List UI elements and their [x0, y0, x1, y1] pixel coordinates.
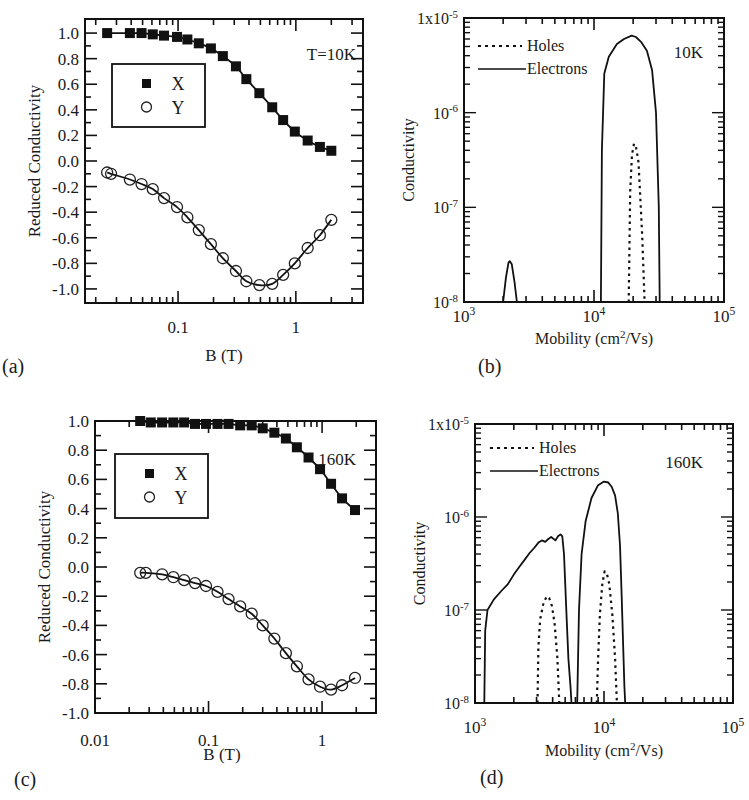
panel-c-reduced-conductivity-160k: 1.00.80.60.40.20.0-0.2-0.4-0.6-0.8-1.00.…: [35, 412, 376, 764]
temperature-annotation-c: 160K: [318, 450, 357, 469]
y-axis-label-a: Reduced Conductivity: [25, 84, 44, 237]
data-point-x-c: [304, 453, 314, 463]
y-tick-label-a: -1.0: [52, 280, 79, 299]
y-tick-label-b: 1x10-5: [417, 8, 459, 27]
legend-box-c: [115, 454, 208, 518]
y-tick-label-a: 0.4: [58, 101, 80, 120]
data-point-x-c: [201, 419, 211, 429]
y-tick-label-a: 0.8: [58, 50, 79, 69]
x-tick-label-b: 103: [453, 305, 476, 326]
panel-d-mobility-spectrum-160k: 1x10-510-610-710-8103104105Mobility (cm2…: [411, 414, 745, 760]
data-point-x-a: [267, 102, 277, 112]
y-tick-label-c: -0.4: [62, 616, 89, 635]
data-point-x-c: [146, 417, 156, 427]
data-point-x-a: [231, 61, 241, 71]
temperature-annotation-d: 160K: [665, 453, 704, 472]
y-tick-label-c: -0.8: [62, 675, 89, 694]
data-point-x-c: [292, 442, 302, 452]
y-tick-label-a: -0.2: [52, 178, 79, 197]
x-tick-label-b: 104: [583, 305, 606, 326]
data-point-x-c: [190, 419, 200, 429]
y-tick-label-a: -0.8: [52, 254, 79, 273]
x-tick-label-c: 1: [318, 731, 327, 750]
panel-label-b: (b): [478, 355, 501, 378]
data-point-x-a: [303, 136, 313, 146]
data-point-x-a: [194, 38, 204, 48]
x-tick-label-d: 105: [722, 716, 745, 737]
data-point-x-a: [159, 31, 169, 41]
data-point-x-c: [168, 417, 178, 427]
data-point-x-a: [278, 115, 288, 125]
data-point-x-c: [224, 419, 234, 429]
legend-box-a: [112, 64, 205, 127]
legend-c: XY: [115, 454, 208, 518]
data-point-x-a: [182, 34, 192, 44]
legend-label-electrons: Electrons: [539, 462, 599, 479]
x-tick-label-d: 104: [593, 716, 616, 737]
data-point-x-a: [326, 146, 336, 156]
legend-square-marker-icon: [145, 469, 154, 478]
data-point-x-a: [315, 142, 325, 152]
data-area-d: [484, 482, 625, 703]
y-tick-label-c: 0.4: [68, 500, 90, 519]
y-axis-label-c: Reduced Conductivity: [35, 490, 54, 643]
y-tick-label-d: 10-6: [444, 507, 470, 526]
y-tick-label-a: 0.0: [58, 152, 79, 171]
y-tick-label-d: 10-7: [444, 600, 470, 619]
y-tick-label-d: 1x10-5: [428, 414, 470, 433]
x-tick-label-a: 1: [292, 318, 301, 337]
data-point-x-a: [218, 51, 228, 61]
y-tick-label-c: 0.6: [68, 470, 89, 489]
data-point-x-a: [172, 32, 182, 42]
panel-a-reduced-conductivity-10k: 1.00.80.60.40.20.0-0.2-0.4-0.6-0.8-1.00.…: [25, 19, 363, 365]
y-tick-label-c: 1.0: [68, 412, 89, 431]
x-axis-label-d: Mobility (cm2/Vs): [545, 740, 663, 760]
fit-curve-y-c: [140, 573, 355, 690]
data-point-x-a: [290, 127, 300, 137]
data-point-x-c: [350, 505, 360, 515]
data-point-x-c: [269, 428, 279, 438]
figure-canvas: 1.00.80.60.40.20.0-0.2-0.4-0.6-0.8-1.00.…: [0, 0, 749, 800]
y-tick-label-c: -1.0: [62, 704, 89, 723]
legend-b: HolesElectrons: [478, 37, 587, 77]
data-point-x-c: [157, 417, 167, 427]
y-tick-label-a: 0.6: [58, 75, 79, 94]
data-point-x-c: [337, 493, 347, 503]
data-point-x-a: [241, 74, 251, 84]
legend-d: HolesElectrons: [490, 439, 599, 479]
x-axis-label-c: B (T): [203, 745, 240, 764]
legend-label-y: Y: [175, 488, 188, 508]
holes-curve-b: [629, 144, 645, 302]
legend-label-y: Y: [172, 98, 185, 118]
temperature-annotation-a: T=10K: [307, 45, 357, 64]
x-tick-label-c: 0.01: [80, 731, 110, 750]
y-tick-label-a: -0.4: [52, 203, 79, 222]
y-tick-label-a: -0.6: [52, 229, 79, 248]
data-point-x-c: [247, 420, 257, 430]
panel-b-mobility-spectrum-10k: 1x10-510-610-710-8103104105Mobility (cm2…: [400, 8, 736, 348]
y-tick-label-c: 0.2: [68, 529, 89, 548]
y-axis-label-b: Conductivity: [400, 118, 418, 202]
panel-label-a: (a): [2, 355, 24, 378]
y-tick-label-c: 0.0: [68, 558, 89, 577]
data-point-y-c: [349, 672, 360, 683]
x-tick-label-d: 103: [464, 716, 487, 737]
legend-label-holes: Holes: [527, 37, 564, 54]
x-tick-label-b: 105: [713, 305, 736, 326]
data-point-x-a: [148, 29, 158, 39]
y-tick-label-a: 0.2: [58, 126, 79, 145]
legend-label-holes: Holes: [539, 439, 576, 456]
data-point-x-c: [281, 434, 291, 444]
legend-label-electrons: Electrons: [527, 60, 587, 77]
data-point-x-c: [326, 479, 336, 489]
data-point-x-a: [102, 28, 112, 38]
holes-curve-d: [538, 596, 560, 703]
temperature-annotation-b: 10K: [674, 43, 704, 62]
y-tick-label-c: -0.6: [62, 646, 89, 665]
data-point-x-c: [235, 420, 245, 430]
legend-square-marker-icon: [142, 79, 151, 88]
y-tick-label-a: 1.0: [58, 24, 79, 43]
data-point-x-a: [206, 43, 216, 53]
y-tick-label-c: -0.2: [62, 587, 89, 606]
panel-label-c: (c): [14, 768, 36, 791]
